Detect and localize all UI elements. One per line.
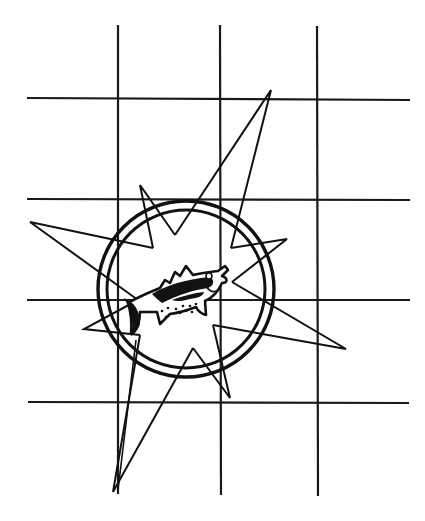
grid-horizontal-4 bbox=[28, 402, 409, 403]
compass-fish-logo bbox=[0, 0, 425, 521]
grid-horizontal-1 bbox=[27, 98, 410, 100]
grid-vertical-3 bbox=[317, 26, 318, 496]
grid-horizontal-2 bbox=[27, 199, 410, 200]
grid-vertical-2 bbox=[220, 25, 221, 495]
